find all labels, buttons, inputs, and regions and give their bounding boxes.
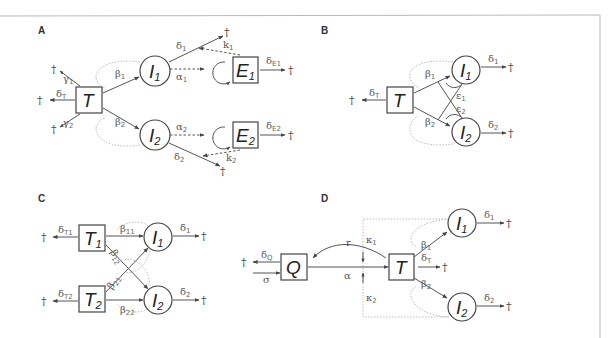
param-beta11: β11	[120, 223, 135, 236]
feedback-curve-i2-t	[411, 287, 449, 317]
param-beta1: β1	[115, 68, 125, 81]
panel-b: B T I1 I2 † † † δT β1 β2 ε1 ε2 δ1 δ2	[321, 25, 514, 146]
param-delta-t2: δT2	[58, 288, 73, 301]
death-symbol-gamma1: †	[51, 63, 57, 76]
param-kappa1: k1	[223, 39, 234, 52]
panel-label-d: D	[321, 193, 328, 204]
param-eps2: ε2	[456, 103, 466, 116]
param-delta2: δ2	[180, 286, 191, 299]
death-symbol-i2: †	[506, 300, 512, 313]
death-symbol-i2: †	[508, 127, 514, 140]
param-delta-e2: δE2	[266, 120, 281, 133]
death-symbol-t: †	[349, 94, 355, 107]
param-beta2: β2	[421, 278, 431, 291]
death-symbol-i2: †	[201, 294, 207, 307]
death-symbol-e2: †	[288, 129, 294, 142]
death-symbol-t: †	[37, 94, 43, 107]
param-delta-t: δT	[369, 87, 380, 100]
param-delta-t: δT	[421, 252, 432, 265]
death-symbol-t2: †	[41, 295, 47, 308]
node-t-label: T	[395, 257, 408, 278]
death-symbol-gamma2: †	[51, 123, 57, 136]
param-alpha: α	[344, 270, 351, 281]
node-t-label: T	[393, 90, 406, 111]
param-alpha2: α2	[176, 121, 187, 134]
param-alpha1: α1	[176, 71, 187, 84]
param-kappa1: κ1	[366, 234, 377, 247]
param-kappa2: κ2	[366, 292, 377, 305]
param-eps1: ε1	[456, 90, 466, 103]
panel-label-a: A	[38, 25, 45, 36]
death-symbol-i1: †	[506, 217, 512, 230]
param-delta1: δ1	[488, 53, 499, 66]
param-delta2: δ2	[174, 151, 185, 164]
param-delta-e1: δE1	[266, 55, 281, 68]
node-q-label: Q	[286, 257, 301, 278]
param-beta1: β1	[425, 68, 435, 81]
death-symbol-q: †	[241, 256, 247, 269]
edge-kappa2	[203, 150, 240, 156]
param-beta2: β2	[115, 116, 125, 129]
death-symbol-t: †	[442, 261, 448, 274]
param-gamma1: γ1	[63, 73, 73, 86]
param-delta1: δ1	[180, 222, 191, 235]
panel-d: D Q T I1 I2 † † † † δQ σ r α κ1	[241, 193, 512, 321]
param-delta-t: δT	[56, 88, 67, 101]
param-delta1: δ1	[484, 209, 495, 222]
param-delta2: δ2	[488, 119, 499, 132]
param-delta2: δ2	[484, 292, 495, 305]
panel-label-b: B	[321, 25, 328, 36]
death-symbol-i2: †	[220, 165, 226, 178]
param-beta22: β22	[120, 304, 135, 317]
death-symbol-e1: †	[288, 64, 294, 77]
death-symbol-i1: †	[201, 230, 207, 243]
param-delta1: δ1	[176, 40, 187, 53]
param-sigma: σ	[263, 274, 270, 285]
param-delta-q: δQ	[261, 249, 273, 262]
feedback-curve-i1-t	[411, 219, 449, 246]
param-kappa2: k2	[226, 152, 237, 165]
death-symbol-t1: †	[41, 231, 47, 244]
self-loop-e1	[213, 62, 230, 84]
param-delta-t1: δT1	[58, 224, 73, 237]
node-t-label: T	[82, 90, 95, 111]
edge-kappa1	[199, 48, 240, 55]
param-beta12: β12	[107, 248, 126, 267]
death-symbol-i1: †	[508, 61, 514, 74]
panel-a: A T I1 I2 E1 E2	[37, 25, 294, 178]
param-r: r	[346, 237, 351, 248]
death-symbol-i1: †	[224, 26, 230, 39]
figure-canvas: A T I1 I2 E1 E2	[0, 0, 613, 338]
self-loop-e2	[213, 127, 230, 149]
panel-label-c: C	[38, 193, 45, 204]
param-beta21: β21	[105, 273, 124, 293]
panel-c: C T1 T2 I1 I2 † † † † δT1 δT2 β11 β22 β1…	[38, 193, 207, 317]
